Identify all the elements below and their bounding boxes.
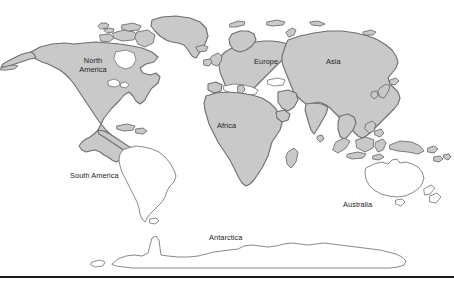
novaya-zemlya-icon — [286, 28, 296, 37]
new-siberian-icon — [363, 30, 376, 35]
timor-icon — [373, 154, 384, 160]
caribbean-islands-group — [117, 124, 147, 134]
sulawesi-icon — [375, 139, 386, 152]
pacific-island-icon — [444, 154, 451, 160]
antarctic-island-icon — [91, 260, 105, 267]
japan-icon — [390, 78, 399, 85]
antarctica-region — [112, 236, 406, 268]
borneo-icon — [356, 137, 374, 152]
arctic-island-icon — [113, 30, 138, 41]
arctic-island-icon — [98, 23, 109, 29]
ireland-icon — [204, 59, 212, 66]
svalbard-icon — [230, 21, 245, 27]
label-antarctica: Antarctica — [209, 234, 242, 242]
southeast-asia-region — [338, 114, 356, 140]
india-region — [305, 103, 328, 134]
british-isles-group — [204, 53, 222, 66]
arctic-island-icon — [122, 23, 141, 31]
iberia-region — [208, 82, 222, 93]
label-africa: Africa — [217, 122, 236, 130]
franz-josef-icon — [267, 20, 285, 26]
new-zealand-icon — [424, 185, 435, 195]
bottom-divider-rule — [0, 276, 454, 278]
hispaniola-icon — [136, 128, 147, 134]
falkland-islands-icon — [150, 218, 159, 224]
pacific-island-icon — [428, 146, 438, 153]
philippines-icon — [375, 129, 384, 137]
sri-lanka-icon — [317, 135, 324, 142]
south-america-region — [119, 146, 176, 222]
label-south-america: South America — [70, 172, 119, 180]
australia-region — [365, 159, 424, 197]
africa-region — [204, 92, 282, 186]
pacific-island-icon — [434, 156, 443, 162]
baffin-island-icon — [135, 30, 155, 47]
label-asia: Asia — [326, 58, 341, 66]
java-icon — [347, 152, 366, 159]
sumatra-icon — [333, 138, 350, 153]
label-north-america-line2: America — [79, 65, 106, 74]
tasmania-icon — [396, 199, 405, 206]
label-australia: Australia — [343, 201, 372, 209]
madagascar-icon — [286, 148, 298, 168]
arctic-island-icon — [104, 28, 114, 33]
label-europe: Europe — [254, 58, 278, 66]
severnaya-icon — [310, 21, 325, 26]
black-sea-icon — [268, 78, 285, 86]
new-zealand-group — [424, 185, 441, 203]
arabian-peninsula-region — [278, 90, 298, 111]
new-guinea-icon — [390, 141, 424, 154]
arctic-island-icon — [100, 34, 114, 42]
alaska-region — [1, 52, 36, 67]
label-north-america: North America — [69, 57, 117, 74]
new-zealand-icon — [430, 193, 441, 203]
cuba-icon — [117, 124, 135, 131]
world-map-figure: North America Europe Asia Africa South A… — [0, 0, 454, 283]
